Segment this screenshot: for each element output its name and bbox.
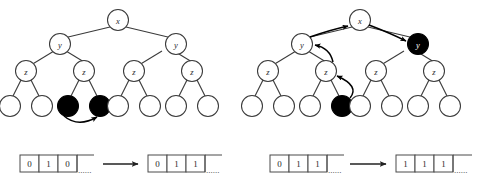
node-left-z3[interactable]: z [124, 61, 145, 82]
panel-left: x y y z z z [0, 10, 222, 176]
pointer-arrow-y1-to-root [310, 26, 348, 37]
pointer-arrow-z2-to-y1 [315, 45, 333, 62]
bit-array-right-before: 0 1 1 ...... [270, 155, 344, 175]
node-right-leaf-1[interactable] [242, 96, 263, 117]
bit-array-ellipsis: ...... [206, 165, 220, 175]
node-right-leaf-3[interactable] [300, 96, 321, 117]
node-left-z1[interactable]: z [16, 61, 37, 82]
node-right-leaf-7[interactable] [408, 96, 429, 117]
node-left-leaf-8[interactable] [198, 96, 219, 117]
node-left-y1[interactable]: y [50, 34, 71, 55]
node-left-root[interactable]: x [108, 10, 129, 31]
node-right-y1[interactable]: y [292, 34, 313, 55]
node-right-z1[interactable]: z [258, 61, 279, 82]
bit-array-ellipsis: ...... [454, 165, 468, 175]
panel-right: x y y z z z [242, 10, 473, 176]
node-right-leaf-5[interactable] [350, 96, 371, 117]
bit-array-ellipsis: ...... [78, 165, 92, 175]
bit-array-right-after: 1 1 1 ...... [396, 155, 472, 175]
bit-array-ellipsis: ...... [328, 165, 342, 175]
node-left-y2[interactable]: y [166, 34, 187, 55]
bit-array-left-before: 0 1 0 ...... [20, 155, 94, 175]
node-right-z2[interactable]: z [316, 61, 337, 82]
node-left-leaf-7[interactable] [166, 96, 187, 117]
node-right-root[interactable]: x [350, 10, 371, 31]
node-right-leaf-2[interactable] [274, 96, 295, 117]
binary-tree-counter-figure: x y y z z z [0, 0, 484, 181]
node-right-z3[interactable]: z [366, 61, 387, 82]
node-left-leaf-2[interactable] [32, 96, 53, 117]
diagram-canvas: x y y z z z [0, 0, 484, 181]
node-left-leaf-3[interactable] [58, 96, 79, 117]
node-left-z2[interactable]: z [74, 61, 95, 82]
pointer-arrow-root-to-y2 [369, 25, 406, 41]
node-right-y2[interactable]: y [408, 34, 429, 55]
node-right-leaf-6[interactable] [382, 96, 403, 117]
pointer-arrow-leaf4-to-z2 [337, 76, 353, 98]
node-left-z4[interactable]: z [182, 61, 203, 82]
node-right-leaf-8[interactable] [440, 96, 461, 117]
node-left-leaf-5[interactable] [108, 96, 129, 117]
bit-array-left-after: 0 1 1 ...... [148, 155, 222, 175]
node-left-leaf-1[interactable] [0, 96, 21, 117]
node-right-z4[interactable]: z [424, 61, 445, 82]
node-left-leaf-6[interactable] [140, 96, 161, 117]
